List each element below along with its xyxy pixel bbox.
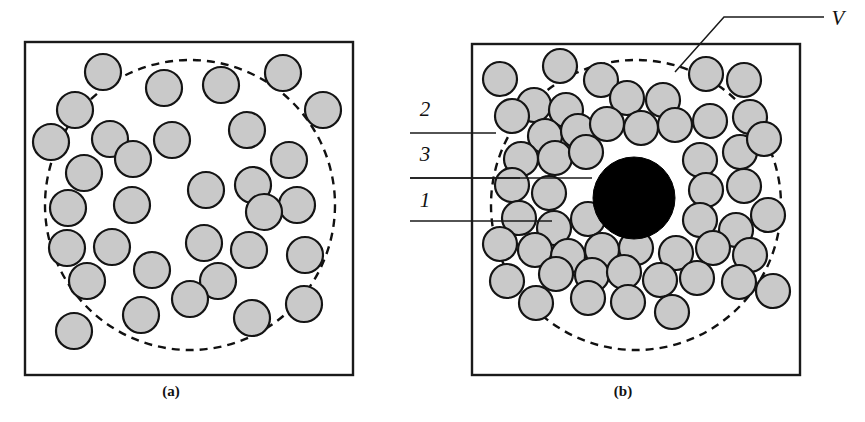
particle — [265, 55, 301, 91]
particle — [532, 176, 566, 210]
particle — [33, 124, 69, 160]
particle — [658, 108, 692, 142]
particle — [286, 286, 322, 322]
particle — [66, 155, 102, 191]
panel-b-caption: (b) — [614, 383, 632, 400]
particle — [693, 104, 727, 138]
panel-a-caption: (a) — [162, 383, 180, 400]
particle — [94, 229, 130, 265]
particle — [50, 190, 86, 226]
callout-label-3: 3 — [419, 142, 431, 166]
callout-label-2: 2 — [420, 97, 431, 121]
particle — [246, 194, 282, 230]
particle — [85, 54, 121, 90]
particle — [689, 57, 723, 91]
particle — [680, 261, 714, 295]
particle — [483, 62, 517, 96]
particle — [747, 122, 781, 156]
particle — [495, 168, 529, 202]
panel-a: (a) — [25, 42, 353, 400]
particle — [114, 187, 150, 223]
particle — [569, 135, 603, 169]
particle — [123, 297, 159, 333]
particle — [49, 230, 85, 266]
central-inclusion — [593, 157, 675, 239]
particle-dispersion-diagram: (a) (b) 231V — [0, 0, 865, 422]
particle — [495, 99, 529, 133]
particle — [590, 107, 624, 141]
particle — [607, 255, 641, 289]
panel-b: (b) — [472, 44, 800, 400]
particle — [188, 172, 224, 208]
particle — [229, 112, 265, 148]
particle — [756, 274, 790, 308]
particle — [539, 257, 573, 291]
particle — [722, 265, 756, 299]
particle — [483, 227, 517, 261]
particle — [543, 49, 577, 83]
particle — [56, 313, 92, 349]
particle — [154, 122, 190, 158]
particle — [696, 231, 730, 265]
particle — [683, 143, 717, 177]
particle — [490, 264, 524, 298]
particle — [146, 70, 182, 106]
particle — [538, 141, 572, 175]
particle — [271, 142, 307, 178]
particle — [689, 173, 723, 207]
particle — [69, 263, 105, 299]
particle — [751, 198, 785, 232]
particle — [727, 169, 761, 203]
particle — [234, 300, 270, 336]
particle — [571, 281, 605, 315]
particle — [115, 141, 151, 177]
particle — [287, 237, 323, 273]
particle — [727, 63, 761, 97]
figure-root: (a) (b) 231V — [0, 0, 865, 422]
particle — [134, 252, 170, 288]
particle — [203, 67, 239, 103]
particle — [655, 295, 689, 329]
particle — [172, 281, 208, 317]
particle — [305, 92, 341, 128]
particle — [643, 263, 677, 297]
callout-label-V: V — [832, 6, 847, 30]
particle — [519, 286, 553, 320]
particle — [57, 92, 93, 128]
particle — [186, 225, 222, 261]
particle — [624, 111, 658, 145]
particle — [231, 232, 267, 268]
particle — [611, 285, 645, 319]
particle — [279, 187, 315, 223]
callout-label-1: 1 — [420, 188, 431, 212]
